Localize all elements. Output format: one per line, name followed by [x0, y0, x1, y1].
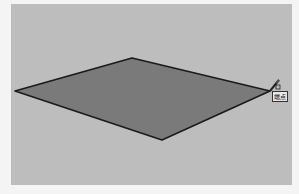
- scene-canvas[interactable]: [0, 0, 299, 194]
- inference-tooltip: 端点: [272, 91, 288, 102]
- pencil-icon: [270, 80, 280, 91]
- face-polygon[interactable]: [15, 58, 270, 140]
